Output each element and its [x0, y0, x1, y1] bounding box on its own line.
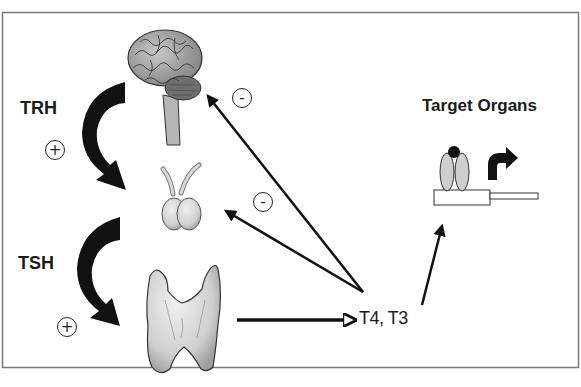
feedback-pituitary-arrow [226, 211, 363, 292]
minus-sign-brain: - [232, 88, 252, 108]
diagram-frame [3, 13, 579, 368]
hormones-to-target-arrow [422, 226, 442, 305]
minus-sign-pituitary: - [253, 192, 273, 212]
trh-label: TRH [20, 98, 57, 119]
brain-icon [128, 30, 202, 145]
tsh-label: TSH [18, 253, 54, 274]
target-organs-label: Target Organs [422, 96, 537, 116]
thyroid-icon [147, 266, 221, 373]
diagram-canvas: TRH TSH T4, T3 Target Organs + + - - [0, 0, 581, 387]
tsh-curved-arrow [77, 217, 120, 326]
hormones-label: T4, T3 [359, 308, 408, 329]
diagram-svg [0, 0, 581, 387]
feedback-brain-arrow [208, 96, 363, 292]
trh-curved-arrow [82, 82, 126, 190]
plus-sign-trh: + [45, 140, 65, 160]
plus-sign-tsh: + [57, 317, 77, 337]
pituitary-icon [162, 165, 201, 230]
target-receptor-icon [434, 146, 538, 205]
